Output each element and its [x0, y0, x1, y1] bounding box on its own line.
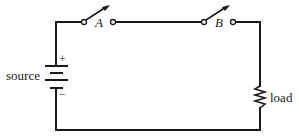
arrow-icon [222, 5, 230, 11]
wire-right-top [236, 22, 260, 86]
wire-right-bottom [56, 88, 260, 130]
switch-b-label: B [215, 15, 223, 30]
minus-sign: − [59, 87, 66, 101]
switch-a-label: A [94, 15, 103, 30]
arrow-icon [102, 5, 110, 11]
circuit-diagram: + − source A B load [0, 0, 299, 137]
resistor-load [255, 86, 265, 108]
load-label: load [270, 90, 293, 105]
source-label: source [6, 68, 40, 83]
plus-sign: + [59, 52, 66, 66]
battery-source [45, 66, 68, 88]
